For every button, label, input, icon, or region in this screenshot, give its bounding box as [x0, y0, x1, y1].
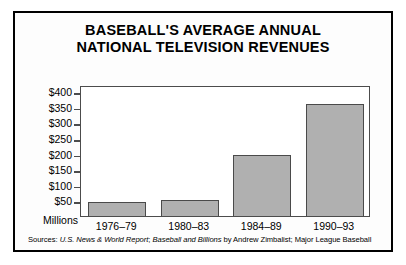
y-axis-tick-label: $250 — [49, 133, 72, 145]
chart-title-line-2: NATIONAL TELEVISION REVENUES — [15, 39, 391, 56]
y-axis-tick-label: $50 — [54, 195, 72, 207]
y-axis-tick-mark — [74, 202, 81, 204]
y-axis-tick-label: $200 — [49, 149, 72, 161]
y-axis-tick-label: $400 — [49, 86, 72, 98]
chart-figure: BASEBALL'S AVERAGE ANNUAL NATIONAL TELEV… — [13, 11, 393, 252]
bar — [306, 104, 364, 216]
y-axis-tick-mark — [74, 109, 81, 111]
source-tail: by Andrew Zimbalist; Major League Baseba… — [221, 235, 371, 244]
chart-title: BASEBALL'S AVERAGE ANNUAL NATIONAL TELEV… — [15, 22, 391, 56]
bar — [88, 202, 146, 216]
chart-title-line-1: BASEBALL'S AVERAGE ANNUAL — [15, 22, 391, 39]
y-axis-tick-label: $300 — [49, 117, 72, 129]
y-axis-units-label: Millions — [17, 214, 78, 226]
y-axis-tick-mark — [74, 140, 81, 142]
source-prefix: Sources: — [28, 235, 60, 244]
bar — [161, 200, 219, 216]
source-note: Sources: U.S. News & World Report; Baseb… — [28, 235, 371, 244]
x-axis-tick-label: 1984–89 — [225, 220, 298, 232]
y-axis-tick-mark — [74, 93, 81, 95]
y-axis-tick-mark — [74, 187, 81, 189]
y-axis-tick-label: $100 — [49, 180, 72, 192]
bar — [233, 155, 291, 216]
y-axis-tick-label: $150 — [49, 164, 72, 176]
x-axis-tick-label: 1990–93 — [298, 220, 371, 232]
y-axis-tick-label: $350 — [49, 102, 72, 114]
y-axis-tick-mark — [74, 156, 81, 158]
y-axis-tick-mark — [74, 171, 81, 173]
plot-inner: $50$100$150$200$250$300$350$400 — [81, 87, 369, 216]
plot-area: $50$100$150$200$250$300$350$400 — [80, 86, 370, 217]
source-italic-1: U.S. News & World Report — [60, 235, 149, 244]
source-italic-2: Baseball and Billions — [152, 235, 221, 244]
x-axis-tick-label: 1976–79 — [80, 220, 153, 232]
y-axis-tick-mark — [74, 124, 81, 126]
x-axis-tick-label: 1980–83 — [153, 220, 226, 232]
